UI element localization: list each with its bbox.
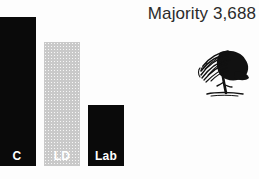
bar-c: C — [0, 17, 36, 166]
bar-label-c: C — [13, 150, 22, 166]
bar-lab: Lab — [88, 105, 124, 166]
vote-share-bar-chart: C LD Lab — [0, 0, 140, 179]
majority-headline: Majority 3,688 — [148, 4, 256, 24]
bar-ld: LD — [44, 42, 80, 166]
oak-tree-logo — [195, 44, 253, 100]
bar-label-lab: Lab — [95, 150, 117, 166]
result-graphic: Majority 3,688 C LD Lab — [0, 0, 259, 179]
bar-label-ld: LD — [54, 150, 70, 166]
